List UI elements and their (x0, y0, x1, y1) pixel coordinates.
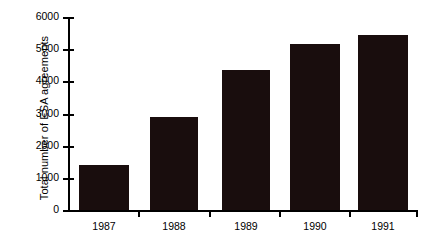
plot-area: 0 1000 2000 3000 4000 5000 6000 (68, 17, 418, 210)
y-tick-label: 6000 (36, 10, 59, 22)
bar-1991 (358, 35, 408, 210)
y-tick-mark (63, 178, 74, 180)
y-tick-label: 4000 (36, 74, 59, 86)
x-tick-label-1988: 1988 (144, 220, 204, 232)
x-tick-mark (349, 210, 351, 217)
y-tick-label: 0 (53, 203, 59, 215)
bar-chart-figure: Total number of ESA agreements 0 1000 20… (0, 0, 445, 248)
y-tick-mark (63, 81, 74, 83)
y-tick-label: 5000 (36, 42, 59, 54)
y-tick-mark (63, 114, 74, 116)
x-tick-mark (209, 210, 211, 217)
x-tick-mark (138, 210, 140, 217)
bar-1988 (150, 117, 198, 210)
x-tick-label-1987: 1987 (74, 220, 134, 232)
y-tick-mark (63, 210, 74, 212)
y-tick-label: 1000 (36, 171, 59, 183)
bar-1990 (290, 44, 340, 210)
x-axis-line (68, 210, 418, 212)
y-tick-label: 2000 (36, 139, 59, 151)
bar-1987 (79, 165, 129, 210)
y-tick-mark (63, 17, 74, 19)
x-tick-label-1991: 1991 (353, 220, 413, 232)
bar-1989 (222, 70, 270, 210)
x-tick-mark (416, 210, 418, 217)
x-tick-label-1989: 1989 (216, 220, 276, 232)
y-tick-label: 3000 (36, 107, 59, 119)
x-tick-mark (279, 210, 281, 217)
y-tick-mark (63, 49, 74, 51)
y-tick-mark (63, 146, 74, 148)
x-tick-label-1990: 1990 (285, 220, 345, 232)
